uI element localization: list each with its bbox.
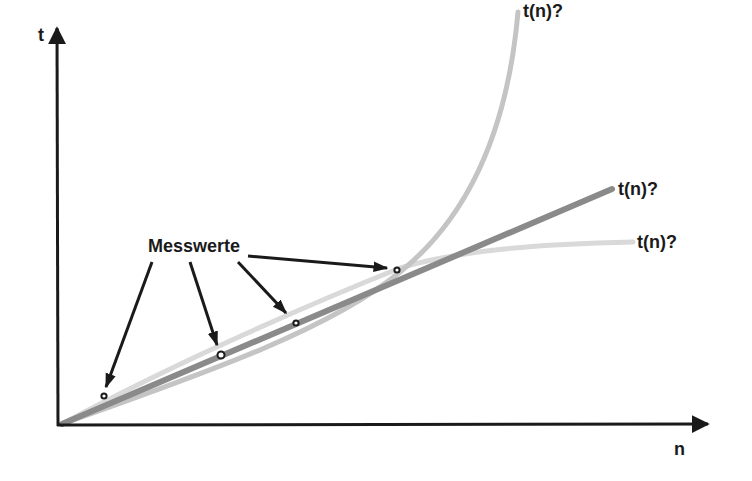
measurements-label: Messwerte — [148, 237, 240, 255]
y-axis-label: t — [38, 26, 44, 44]
measurement-point — [394, 267, 399, 272]
x-axis-label: n — [674, 440, 685, 458]
curve-label-logarithmic: t(n)? — [637, 233, 677, 251]
measurement-point — [218, 352, 225, 359]
axes — [57, 28, 708, 426]
curve-label-exponential: t(n)? — [523, 2, 563, 20]
measurement-point — [101, 393, 106, 398]
curve-label-linear: t(n)? — [618, 180, 658, 198]
curve-linear — [62, 189, 612, 424]
measurement-arrow — [238, 262, 286, 313]
measurement-arrow — [106, 262, 152, 387]
x-axis — [57, 424, 708, 425]
y-axis — [57, 28, 58, 426]
measurement-arrow — [248, 256, 387, 268]
curve-logarithmic — [62, 242, 633, 424]
curves-layer — [62, 12, 633, 424]
measurement-point — [293, 320, 298, 325]
curve-exponential — [62, 12, 518, 424]
measurement-arrow — [190, 262, 217, 345]
measurement-arrows — [106, 256, 387, 387]
